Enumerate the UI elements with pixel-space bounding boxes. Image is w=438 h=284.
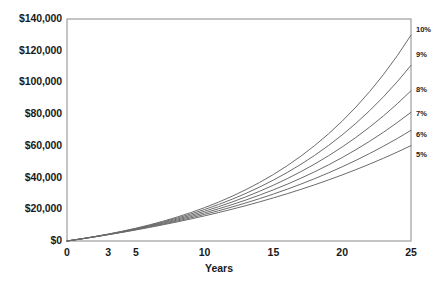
x-tick-3: 3 (93, 246, 123, 258)
legend-rate-9pct: 9% (416, 50, 427, 59)
legend-rate-7pct: 7% (416, 109, 427, 118)
chart-container: $0$20,000$40,000$60,000$80,000$100,000$1… (0, 0, 438, 284)
y-tick-20000: $20,000 (0, 202, 62, 214)
legend-rate-8pct: 8% (416, 85, 427, 94)
y-tick-80000: $80,000 (0, 107, 62, 119)
x-tick-25: 25 (396, 246, 426, 258)
y-tick-140000: $140,000 (0, 12, 62, 24)
legend-rate-5pct: 5% (416, 150, 427, 159)
y-tick-0: $0 (0, 234, 62, 246)
legend-rate-6pct: 6% (416, 130, 427, 139)
x-axis-title: Years (0, 262, 438, 274)
y-tick-100000: $100,000 (0, 75, 62, 87)
legend-rate-10pct: 10% (416, 25, 431, 34)
y-tick-60000: $60,000 (0, 139, 62, 151)
x-tick-5: 5 (121, 246, 151, 258)
chart-plot-area (0, 0, 438, 284)
y-tick-40000: $40,000 (0, 171, 62, 183)
x-tick-10: 10 (190, 246, 220, 258)
x-tick-15: 15 (258, 246, 288, 258)
y-tick-120000: $120,000 (0, 44, 62, 56)
x-tick-20: 20 (327, 246, 357, 258)
x-tick-0: 0 (52, 246, 82, 258)
